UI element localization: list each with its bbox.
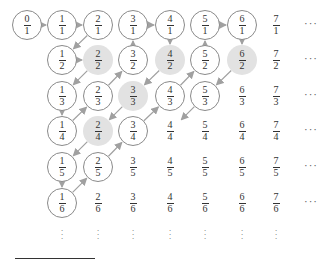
arrow [73, 71, 87, 85]
fraction: 66 [239, 192, 246, 214]
fraction-7-over-6: 76 [261, 188, 291, 218]
numerator: 3 [131, 120, 136, 130]
column-vdots: ··· [168, 229, 172, 241]
fraction-0-over-1: 01 [12, 10, 42, 40]
fraction: 34 [130, 120, 137, 142]
column-vdots: ··· [60, 229, 64, 241]
fraction: 32 [130, 49, 137, 71]
numerator: 5 [203, 85, 208, 95]
fraction: 72 [273, 49, 280, 71]
denominator: 4 [60, 132, 65, 142]
fraction: 14 [59, 120, 66, 142]
fraction-3-over-6: 36 [118, 188, 148, 218]
denominator: 4 [240, 132, 245, 142]
fraction: 15 [59, 156, 66, 178]
fraction: 22 [95, 49, 102, 71]
numerator: 1 [60, 192, 65, 202]
fraction-1-over-6: 16 [47, 188, 77, 218]
fraction: 33 [130, 85, 137, 107]
denominator: 1 [131, 26, 136, 36]
numerator: 0 [25, 14, 30, 24]
column-vdots: ··· [131, 229, 135, 241]
fraction-4-over-6: 46 [155, 188, 185, 218]
column-vdots: ··· [96, 229, 100, 241]
fraction-4-over-2: 42 [155, 45, 185, 75]
numerator: 1 [60, 156, 65, 166]
fraction-3-over-3: 33 [118, 81, 148, 111]
numerator: 4 [168, 120, 173, 130]
fraction: 46 [167, 192, 174, 214]
fraction: 63 [239, 85, 246, 107]
fraction-7-over-5: 75 [261, 152, 291, 182]
row-ellipsis: ··· [304, 159, 318, 171]
numerator: 2 [96, 120, 101, 130]
fraction-1-over-3: 13 [47, 81, 77, 111]
arrow [73, 107, 87, 120]
numerator: 6 [240, 192, 245, 202]
denominator: 2 [274, 61, 279, 71]
fraction: 23 [95, 85, 102, 107]
fraction: 71 [273, 14, 280, 36]
numerator: 2 [96, 156, 101, 166]
denominator: 6 [274, 204, 279, 214]
fraction-5-over-4: 54 [190, 116, 220, 146]
fraction-2-over-1: 21 [83, 10, 113, 40]
fraction: 53 [202, 85, 209, 107]
fraction: 65 [239, 156, 246, 178]
numerator: 6 [240, 14, 245, 24]
denominator: 6 [203, 204, 208, 214]
numerator: 3 [131, 85, 136, 95]
fraction-6-over-3: 63 [227, 81, 257, 111]
fraction-2-over-4: 24 [83, 116, 113, 146]
fraction: 16 [59, 192, 66, 214]
denominator: 1 [274, 26, 279, 36]
row-ellipsis: ··· [304, 123, 318, 135]
denominator: 3 [240, 97, 245, 107]
fraction-2-over-2: 22 [83, 45, 113, 75]
fraction-7-over-1: 71 [261, 10, 291, 40]
numerator: 2 [96, 49, 101, 59]
fraction: 25 [95, 156, 102, 178]
fraction-6-over-4: 64 [227, 116, 257, 146]
fraction: 52 [202, 49, 209, 71]
denominator: 5 [274, 168, 279, 178]
fraction-3-over-5: 35 [118, 152, 148, 182]
numerator: 2 [96, 85, 101, 95]
fraction: 64 [239, 120, 246, 142]
denominator: 5 [203, 168, 208, 178]
arrow [180, 71, 193, 85]
numerator: 1 [60, 85, 65, 95]
denominator: 5 [96, 168, 101, 178]
denominator: 2 [96, 61, 101, 71]
fraction: 26 [95, 192, 102, 214]
fraction: 45 [167, 156, 174, 178]
denominator: 1 [25, 26, 30, 36]
numerator: 2 [96, 14, 101, 24]
fraction-2-over-3: 23 [83, 81, 113, 111]
denominator: 1 [96, 26, 101, 36]
numerator: 4 [168, 192, 173, 202]
numerator: 4 [168, 14, 173, 24]
numerator: 3 [131, 192, 136, 202]
fraction-6-over-6: 66 [227, 188, 257, 218]
denominator: 6 [240, 204, 245, 214]
denominator: 6 [60, 204, 65, 214]
row-ellipsis: ··· [304, 17, 318, 29]
denominator: 4 [168, 132, 173, 142]
denominator: 2 [203, 61, 208, 71]
fraction: 61 [239, 14, 246, 36]
fraction: 11 [59, 14, 66, 36]
fraction: 42 [167, 49, 174, 71]
numerator: 6 [240, 156, 245, 166]
fraction-7-over-3: 73 [261, 81, 291, 111]
fraction-6-over-2: 62 [227, 45, 257, 75]
fraction: 62 [239, 49, 246, 71]
numerator: 7 [274, 192, 279, 202]
numerator: 3 [131, 49, 136, 59]
column-vdots: ··· [203, 229, 207, 241]
fraction-5-over-3: 53 [190, 81, 220, 111]
numerator: 4 [168, 156, 173, 166]
fraction-4-over-1: 41 [155, 10, 185, 40]
numerator: 7 [274, 14, 279, 24]
fraction: 51 [202, 14, 209, 36]
